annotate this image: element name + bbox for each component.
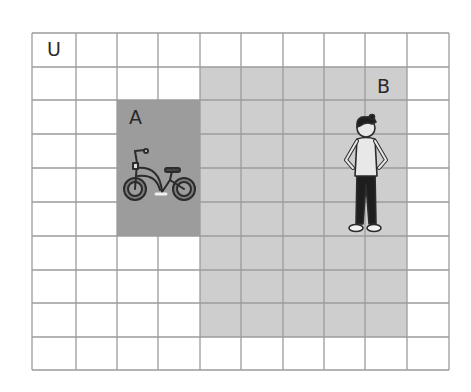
universe-label: U bbox=[47, 40, 61, 59]
set-a-label: A bbox=[129, 108, 142, 127]
set-b-label: B bbox=[377, 77, 390, 96]
grid-canvas bbox=[0, 0, 471, 392]
venn-grid-diagram: U A B bbox=[0, 0, 471, 392]
